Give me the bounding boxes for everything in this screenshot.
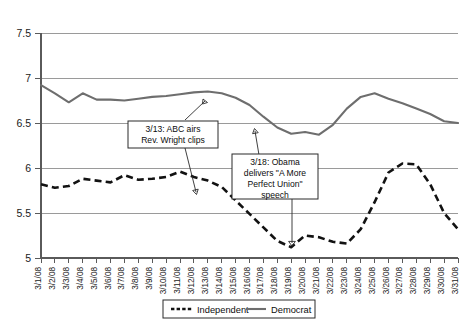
- annotation-wright-leader-up: [185, 101, 205, 120]
- x-axis-label: 3/16/08: [243, 267, 252, 295]
- annotation-wright-line-2: Rev. Wright clips: [141, 135, 205, 145]
- chart-legend: Independent Democrat: [163, 300, 315, 318]
- x-axis-label: 3/25/08: [368, 267, 377, 295]
- x-axis-label: 3/22/08: [326, 267, 335, 295]
- x-axis-label: 3/1/08: [34, 267, 43, 290]
- x-axis-label: 3/5/08: [90, 267, 99, 290]
- x-axis-label: 3/7/08: [117, 267, 126, 290]
- x-axis-label: 3/18/08: [270, 267, 279, 295]
- y-axis-label: 6.5: [16, 117, 31, 129]
- annotation-speech-line-3: Perfect Union": [247, 179, 302, 189]
- x-axis-label: 3/26/08: [382, 267, 391, 295]
- x-axis-label: 3/6/08: [104, 267, 113, 290]
- x-axis-label: 3/9/08: [145, 267, 154, 290]
- line-chart: 7.5 7 6.5 6 5.5 5 3/1/083/2/083/3/083/4/…: [0, 0, 471, 333]
- x-axis-label: 3/27/08: [395, 267, 404, 295]
- x-axis-label: 3/2/08: [48, 267, 57, 290]
- x-axis-label: 3/11/08: [173, 267, 182, 294]
- chart-canvas: 7.5 7 6.5 6 5.5 5 3/1/083/2/083/3/083/4/…: [0, 0, 471, 333]
- legend-label-independent: Independent: [197, 305, 249, 315]
- x-axis-label: 3/3/08: [62, 267, 71, 290]
- x-axis-label: 3/10/08: [159, 267, 168, 295]
- x-axis-label: 3/12/08: [187, 267, 196, 295]
- x-axis-label: 3/15/08: [229, 267, 238, 295]
- y-axis-label: 7: [25, 72, 31, 84]
- gridlines: [41, 33, 458, 258]
- x-axis-label: 3/29/08: [423, 267, 432, 295]
- legend-label-democrat: Democrat: [271, 305, 312, 315]
- x-axis-label: 3/4/08: [76, 267, 85, 290]
- y-axis: 7.5 7 6.5 6 5.5 5: [16, 27, 41, 264]
- annotation-speech-line-4: speech: [261, 190, 289, 200]
- y-axis-label: 5: [25, 252, 31, 264]
- annotation-speech-line-2: delivers "A More: [244, 168, 306, 178]
- y-axis-label: 6: [25, 162, 31, 174]
- x-axis-label: 3/8/08: [131, 267, 140, 290]
- annotation-wright-arrowhead-down: [193, 189, 199, 194]
- x-axis-ticks: [41, 258, 458, 263]
- x-axis-label: 3/20/08: [298, 267, 307, 295]
- x-axis-label: 3/14/08: [215, 267, 224, 295]
- x-axis-label: 3/17/08: [256, 267, 265, 295]
- annotation-speech-line-1: 3/18: Obama: [250, 157, 300, 167]
- annotation-wright-line-1: 3/13: ABC airs: [146, 124, 201, 134]
- annotation-speech: 3/18: Obama delivers "A More Perfect Uni…: [232, 129, 318, 247]
- x-axis-label: 3/31/08: [451, 267, 460, 295]
- x-axis-label: 3/23/08: [340, 267, 349, 295]
- annotation-wright-leader-down: [185, 148, 196, 192]
- x-axis-label: 3/28/08: [409, 267, 418, 295]
- annotation-speech-leader-up: [255, 131, 259, 155]
- x-axis-labels: 3/1/083/2/083/3/083/4/083/5/083/6/083/7/…: [34, 267, 460, 295]
- x-axis-label: 3/13/08: [201, 267, 210, 295]
- x-axis-label: 3/21/08: [312, 267, 321, 295]
- x-axis-label: 3/19/08: [284, 267, 293, 295]
- x-axis-label: 3/30/08: [437, 267, 446, 295]
- series-line-democrat: [41, 85, 458, 135]
- y-axis-label: 7.5: [16, 27, 31, 39]
- x-axis-label: 3/24/08: [354, 267, 363, 295]
- y-axis-label: 5.5: [16, 207, 31, 219]
